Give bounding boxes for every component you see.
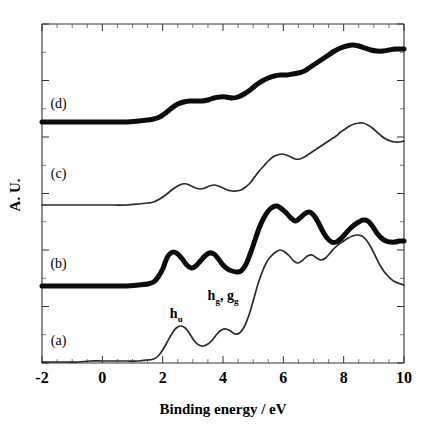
peak-annotation-hu: hu: [170, 306, 183, 324]
curve-label-c: (c): [51, 166, 67, 182]
spectra-plot: -20246810 (a)(b)(c)(d) huhg, gg Binding …: [0, 0, 427, 434]
curve-label-d: (d): [50, 96, 67, 112]
y-axis-title: A. U.: [7, 178, 23, 211]
x-axis-ticks: [42, 24, 404, 363]
spectra-curves: [42, 45, 404, 362]
plot-frame: [42, 24, 404, 363]
curve-label-a: (a): [51, 333, 67, 349]
peak-annotation-hg_gg: hg, gg: [208, 288, 239, 306]
curve-label-b: (b): [50, 256, 67, 272]
peak-annotations: huhg, gg: [170, 288, 239, 324]
spectrum-curve-d: [42, 45, 404, 122]
x-tick-label: 10: [396, 369, 412, 386]
x-axis-title: Binding energy / eV: [159, 401, 286, 417]
spectrum-curve-c: [42, 123, 404, 205]
x-axis-tick-labels: -20246810: [35, 369, 412, 386]
x-tick-label: 4: [219, 369, 227, 386]
figure-container: -20246810 (a)(b)(c)(d) huhg, gg Binding …: [0, 0, 427, 434]
x-tick-label: 0: [98, 369, 106, 386]
curve-labels: (a)(b)(c)(d): [50, 96, 67, 349]
x-tick-label: 8: [340, 369, 348, 386]
x-tick-label: 2: [159, 369, 167, 386]
y-axis-ticks: [42, 24, 404, 363]
x-tick-label: -2: [35, 369, 48, 386]
spectrum-curve-b: [42, 206, 404, 286]
x-tick-label: 6: [279, 369, 287, 386]
